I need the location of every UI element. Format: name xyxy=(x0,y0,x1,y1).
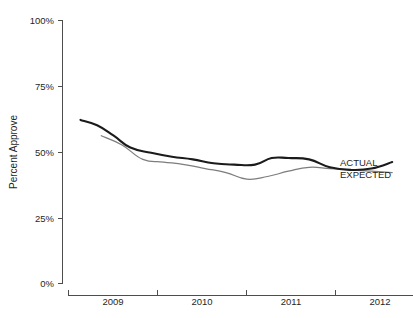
y-tick-label-75: 75% xyxy=(35,81,55,92)
y-tick-label-100: 100% xyxy=(30,15,55,26)
x-tick-label-2009: 2009 xyxy=(102,296,123,307)
series-label-actual: ACTUAL xyxy=(340,157,377,168)
series-label-expected: EXPECTED xyxy=(340,169,391,180)
approval-line-chart: 100% 75% 50% 25% 0% Percent Approve 2009… xyxy=(0,0,413,318)
x-tick-label-2012: 2012 xyxy=(369,296,390,307)
chart-canvas: 100% 75% 50% 25% 0% Percent Approve 2009… xyxy=(0,0,413,318)
y-axis-title: Percent Approve xyxy=(8,115,19,189)
x-tick-label-2011: 2011 xyxy=(281,296,301,307)
y-tick-label-25: 25% xyxy=(35,213,55,224)
y-tick-label-0: 0% xyxy=(40,278,54,289)
y-tick-label-50: 50% xyxy=(35,147,55,158)
x-tick-label-2010: 2010 xyxy=(191,296,212,307)
